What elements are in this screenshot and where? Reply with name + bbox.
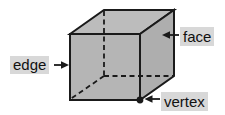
edge-label: edge [10,56,49,74]
vertex-dot [137,97,144,104]
cube-diagram: edge face vertex [0,0,225,115]
vertex-label: vertex [161,92,208,111]
cube-front-face [70,34,140,100]
edge-arrow-icon [61,61,69,69]
face-label: face [180,27,214,46]
